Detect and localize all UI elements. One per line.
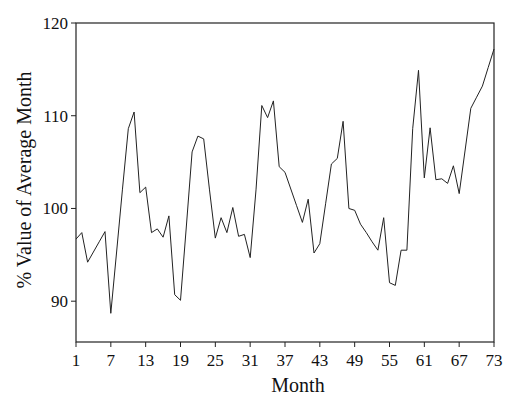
y-axis: 90100110120 (43, 14, 77, 311)
plot-area: 90100110120 171319253137434955616773 (43, 14, 503, 370)
x-tick-label: 37 (277, 351, 295, 370)
x-tick-label: 19 (172, 351, 189, 370)
x-tick-label: 25 (207, 351, 224, 370)
y-tick-label: 90 (51, 292, 68, 311)
x-axis: 171319253137434955616773 (72, 342, 503, 370)
y-tick-label: 120 (43, 14, 69, 33)
x-tick-label: 73 (486, 351, 503, 370)
x-tick-label: 55 (381, 351, 398, 370)
x-tick-label: 31 (242, 351, 259, 370)
x-axis-title: Month (271, 374, 324, 396)
x-tick-label: 61 (416, 351, 433, 370)
data-line (76, 49, 494, 313)
x-tick-label: 43 (311, 351, 328, 370)
x-tick-label: 7 (107, 351, 116, 370)
y-axis-title: % Value of Average Month (13, 72, 36, 289)
x-tick-label: 49 (346, 351, 363, 370)
x-tick-label: 67 (451, 351, 469, 370)
x-tick-label: 13 (137, 351, 154, 370)
line-chart: 90100110120 171319253137434955616773 Mon… (0, 0, 519, 411)
y-tick-label: 110 (43, 107, 68, 126)
x-tick-label: 1 (72, 351, 81, 370)
y-tick-label: 100 (43, 199, 69, 218)
